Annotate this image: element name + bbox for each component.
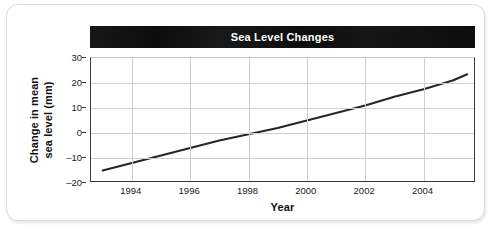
chart-title: Sea Level Changes (90, 26, 475, 48)
vertical-gridline (307, 58, 308, 181)
vertical-gridline (190, 58, 191, 181)
x-axis-tick-labels: 199419961998200020022004 (90, 185, 475, 199)
vertical-gridline (365, 58, 366, 181)
y-axis-tick-mark (82, 157, 86, 158)
figure-card: Sea Level Changes Change in mean sea lev… (6, 4, 485, 221)
vertical-gridline (249, 58, 250, 181)
horizontal-gridline (91, 83, 474, 84)
x-axis-tick-label: 2004 (412, 185, 433, 196)
y-axis-tick-mark (82, 182, 86, 183)
y-axis-tick-label: 30 (40, 52, 82, 63)
x-axis-tick-label: 2002 (354, 185, 375, 196)
y-axis-tick-mark (82, 107, 86, 108)
x-axis-tick-label: 1998 (237, 185, 258, 196)
x-axis-title: Year (90, 201, 475, 213)
horizontal-gridline (91, 133, 474, 134)
y-axis-tick-mark (82, 82, 86, 83)
horizontal-gridline (91, 108, 474, 109)
y-axis-tick-label: –20 (40, 177, 82, 188)
y-axis-tick-label: 10 (40, 102, 82, 113)
x-axis-tick-label: 1996 (179, 185, 200, 196)
y-axis-tick-label: 20 (40, 77, 82, 88)
x-axis-tick-label: 2000 (295, 185, 316, 196)
data-series-line (91, 58, 475, 182)
y-axis-tick-label: 0 (40, 127, 82, 138)
y-axis-tick-mark (82, 57, 86, 58)
y-axis-tick-label: –10 (40, 152, 82, 163)
x-axis-tick-label: 1994 (120, 185, 141, 196)
plot-area (90, 57, 475, 182)
vertical-gridline (424, 58, 425, 181)
vertical-gridline (132, 58, 133, 181)
y-axis-tick-labels: 3020100–10–20 (38, 57, 86, 182)
chart-title-banner: Sea Level Changes (90, 26, 475, 48)
y-axis-tick-mark (82, 132, 86, 133)
horizontal-gridline (91, 158, 474, 159)
